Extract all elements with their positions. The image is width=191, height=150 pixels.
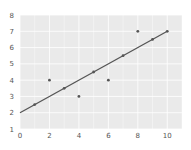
y-axis-ticks: 12345678 — [10, 12, 15, 134]
x-tick-label: 2 — [47, 132, 51, 140]
x-axis-ticks: 0246810 — [18, 132, 172, 140]
plot-area — [20, 15, 182, 129]
data-point — [63, 87, 66, 90]
y-tick-label: 2 — [10, 109, 14, 117]
y-tick-label: 7 — [10, 28, 14, 36]
data-point — [33, 103, 36, 106]
scatter-chart: 12345678 0246810 — [0, 0, 191, 150]
data-point — [151, 38, 154, 41]
data-point — [78, 95, 81, 98]
data-point — [166, 30, 169, 33]
x-tick-label: 0 — [18, 132, 22, 140]
x-tick-label: 6 — [106, 132, 111, 140]
y-tick-label: 5 — [10, 60, 14, 68]
y-tick-label: 6 — [10, 44, 15, 52]
x-tick-label: 8 — [136, 132, 140, 140]
y-tick-label: 4 — [10, 77, 15, 85]
x-tick-label: 4 — [77, 132, 82, 140]
y-tick-label: 1 — [10, 126, 14, 134]
y-tick-label: 3 — [10, 93, 14, 101]
y-tick-label: 8 — [10, 12, 14, 20]
data-point — [48, 79, 51, 82]
data-point — [92, 71, 95, 74]
x-tick-label: 10 — [163, 132, 172, 140]
data-point — [136, 30, 139, 33]
data-point — [122, 54, 125, 57]
data-point — [107, 79, 110, 82]
